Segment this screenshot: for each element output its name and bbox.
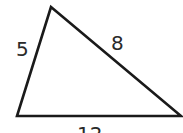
side-label-left: 5 xyxy=(16,37,29,61)
triangle-diagram: 5 8 12 xyxy=(0,0,183,133)
side-label-right: 8 xyxy=(111,31,124,55)
side-label-bottom: 12 xyxy=(77,122,102,133)
triangle xyxy=(17,7,181,116)
